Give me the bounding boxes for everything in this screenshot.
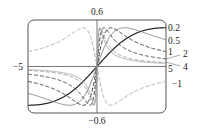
curve-label-5: 5: [168, 64, 173, 74]
curve-label-2: 2: [183, 49, 188, 59]
curve-label-0.5: 0.5: [168, 36, 180, 46]
curve-label-4: 4: [183, 62, 188, 72]
chart: 0.6 −0.6 −5 0.2 0.5 1 2 4 5 −1: [0, 0, 198, 131]
curve-label-1: 1: [168, 47, 173, 57]
curve-label-minus1: −1: [172, 79, 182, 89]
curve-label-0.2: 0.2: [168, 23, 180, 33]
y-max-label: 0.6: [91, 7, 103, 17]
y-min-label: −0.6: [88, 116, 105, 126]
x-min-label: −5: [13, 62, 23, 72]
